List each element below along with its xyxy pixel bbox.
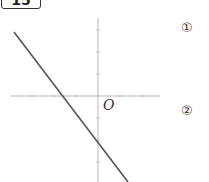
coordinate-graph [0,0,209,182]
sub-question-1-label: ① [181,20,193,35]
sub-question-2-label: ② [181,103,193,118]
origin-label: O [103,97,114,113]
